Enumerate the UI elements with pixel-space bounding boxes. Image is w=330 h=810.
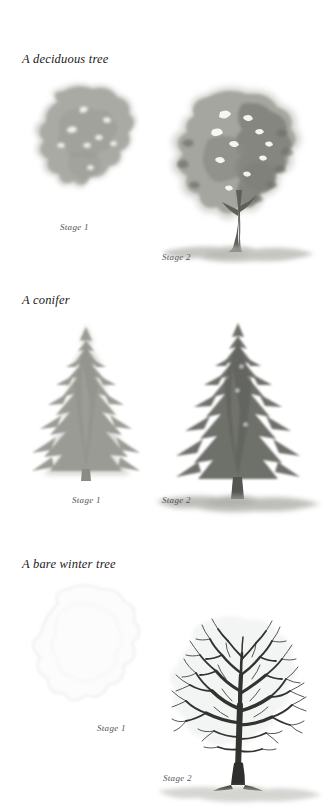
- conifer-stage2-art: [152, 317, 324, 517]
- section-deciduous: A deciduous tree: [0, 0, 330, 285]
- section-title-bare-winter: A bare winter tree: [22, 557, 116, 572]
- stage-label-deciduous-2: Stage 2: [162, 252, 191, 262]
- deciduous-stage1-art: [18, 82, 153, 207]
- stage-label-bare-1: Stage 1: [97, 723, 126, 733]
- stage-label-conifer-1: Stage 1: [72, 495, 101, 505]
- section-bare-winter: A bare winter tree Stage 1: [0, 545, 330, 810]
- stage-label-bare-2: Stage 2: [163, 773, 192, 783]
- section-conifer: A conifer: [0, 285, 330, 545]
- stage-label-conifer-2: Stage 2: [162, 495, 191, 505]
- deciduous-stage2-art: [156, 86, 321, 272]
- bare-stage1-art: [18, 583, 153, 718]
- section-title-conifer: A conifer: [22, 293, 70, 308]
- stage-label-deciduous-1: Stage 1: [60, 222, 89, 232]
- illustration-page: A deciduous tree: [0, 0, 330, 810]
- section-title-deciduous: A deciduous tree: [22, 52, 109, 67]
- conifer-stage1-art: [22, 323, 152, 483]
